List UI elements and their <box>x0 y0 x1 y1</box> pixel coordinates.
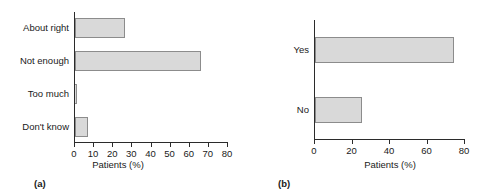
bar-row: Yes <box>315 37 464 63</box>
category-label: Not enough <box>20 56 69 66</box>
x-tick-label: 40 <box>145 149 156 159</box>
bar-row: About right <box>75 18 227 38</box>
bar <box>315 37 454 63</box>
x-tick-label: 10 <box>88 149 99 159</box>
bar-row: Not enough <box>75 51 227 71</box>
bar-row: No <box>315 97 464 123</box>
category-label: About right <box>23 24 69 34</box>
bar <box>75 51 201 71</box>
bar-row: Don't know <box>75 117 227 137</box>
x-tick-label: 30 <box>126 149 137 159</box>
plot-area-b: YesNo 020406080 <box>314 20 464 140</box>
x-tick <box>93 143 94 147</box>
bar <box>75 117 88 137</box>
plot-area-a: About rightNot enoughToo muchDon't know … <box>74 12 227 143</box>
bar <box>315 97 362 123</box>
bar <box>75 18 125 38</box>
category-label: Yes <box>294 45 310 55</box>
x-tick <box>74 143 75 147</box>
x-tick <box>170 143 171 147</box>
chart-panel-a: About rightNot enoughToo muchDon't know … <box>0 0 248 196</box>
x-axis-title-b: Patients (%) <box>364 160 416 170</box>
panel-label-b: (b) <box>278 178 290 189</box>
x-tick-label: 80 <box>459 146 470 156</box>
x-tick <box>464 140 465 144</box>
panel-label-a: (a) <box>34 178 46 189</box>
bar-group-b: YesNo <box>315 20 464 139</box>
x-tick-label: 80 <box>222 149 233 159</box>
x-axis-title-a: Patients (%) <box>92 160 144 170</box>
figure-two-bar-charts: About rightNot enoughToo muchDon't know … <box>0 0 496 196</box>
x-tick-label: 20 <box>107 149 118 159</box>
x-tick-label: 0 <box>311 146 316 156</box>
bar-group-a: About rightNot enoughToo muchDon't know <box>75 12 227 142</box>
x-tick-label: 60 <box>183 149 194 159</box>
x-tick-label: 0 <box>71 149 76 159</box>
category-label: Don't know <box>22 122 69 132</box>
x-tick <box>389 140 390 144</box>
x-tick <box>151 143 152 147</box>
x-tick <box>208 143 209 147</box>
x-tick <box>427 140 428 144</box>
x-tick <box>227 143 228 147</box>
x-tick-label: 40 <box>384 146 395 156</box>
x-tick <box>189 143 190 147</box>
x-tick <box>314 140 315 144</box>
category-label: Too much <box>28 89 69 99</box>
category-label: No <box>297 105 309 115</box>
x-tick-label: 60 <box>421 146 432 156</box>
bar-row: Too much <box>75 84 227 104</box>
x-tick <box>352 140 353 144</box>
x-tick <box>112 143 113 147</box>
x-tick-label: 70 <box>203 149 214 159</box>
x-tick <box>131 143 132 147</box>
x-tick-label: 20 <box>346 146 357 156</box>
bar <box>75 84 77 104</box>
x-tick-label: 50 <box>164 149 175 159</box>
